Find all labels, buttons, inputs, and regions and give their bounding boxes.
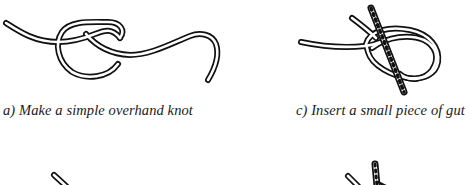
knot-instruction-figure: a) Make a simple overhand knot c) Insert… [0, 0, 471, 185]
caption-step-c: c) Insert a small piece of gut [296, 102, 465, 119]
caption-step-a: a) Make a simple overhand knot [3, 102, 193, 119]
knot-partial-bottom-right-icon [0, 0, 471, 185]
